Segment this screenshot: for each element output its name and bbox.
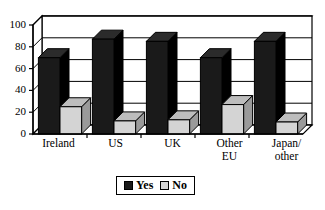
chart-legend: Yes No bbox=[116, 176, 195, 195]
y-axis-tick-label: 40 bbox=[0, 84, 26, 95]
black-square-icon bbox=[124, 181, 133, 190]
x-axis-category-label: Japan/other bbox=[258, 137, 315, 177]
y-axis-tick-labels: 100806040200 bbox=[0, 0, 26, 210]
x-axis-category-labels: IrelandUSUKOtherEUJapan/other bbox=[30, 137, 315, 177]
x-axis-category-label-line: other bbox=[258, 150, 315, 163]
legend-item-yes: Yes bbox=[124, 179, 153, 192]
x-axis-category-label-line: US bbox=[108, 137, 123, 149]
y-axis-tick-label: 60 bbox=[0, 63, 26, 74]
legend-item-no: No bbox=[160, 179, 187, 192]
x-axis-category-label-line: UK bbox=[164, 137, 181, 149]
y-axis-tick-label: 100 bbox=[0, 19, 26, 30]
x-axis-category-label: OtherEU bbox=[201, 137, 258, 177]
legend-label-yes: Yes bbox=[136, 179, 153, 192]
x-axis-category-label: UK bbox=[144, 137, 201, 177]
x-axis-category-label-line: EU bbox=[201, 150, 258, 163]
legend-label-no: No bbox=[172, 179, 187, 192]
x-axis-category-label-line: Japan/ bbox=[272, 137, 301, 149]
bar-chart: 100806040200 IrelandUSUKOtherEUJapan/oth… bbox=[0, 0, 325, 210]
y-axis-tick-label: 80 bbox=[0, 41, 26, 52]
x-axis-category-label-line: Ireland bbox=[42, 137, 75, 149]
y-axis-tick-label: 0 bbox=[0, 128, 26, 139]
x-axis-category-label-line: Other bbox=[216, 137, 242, 149]
x-axis-category-label: Ireland bbox=[30, 137, 87, 177]
gray-square-icon bbox=[160, 181, 169, 190]
y-axis-tick-label: 20 bbox=[0, 106, 26, 117]
x-axis-category-label: US bbox=[87, 137, 144, 177]
